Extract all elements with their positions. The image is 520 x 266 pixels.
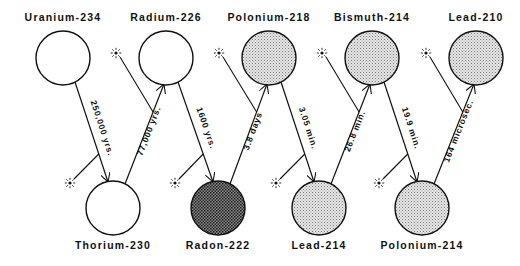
nuclide-circle-po214 — [395, 181, 449, 235]
radiation-star-icon — [271, 178, 281, 188]
nuclide-label-po214: Polonium-214 — [380, 239, 463, 251]
emission-line — [74, 154, 99, 179]
nuclide-label-u234: Uranium-234 — [25, 11, 102, 23]
radiation-star-icon — [65, 178, 75, 188]
nuclide-circle-ra226 — [139, 31, 193, 85]
radiation-star-icon — [421, 48, 431, 58]
radiation-star-icon — [374, 178, 384, 188]
half-life-label: 3.05 min. — [297, 106, 320, 151]
nuclide-circle-th230 — [86, 181, 140, 235]
nuclide-label-bi214: Bismuth-214 — [334, 11, 410, 23]
radiation-star-icon — [170, 178, 180, 188]
nuclide-circle-pb210 — [449, 31, 503, 85]
radiation-star-icon — [317, 48, 327, 58]
half-life-label: 19.9 min. — [400, 106, 423, 151]
radiation-star-icon — [214, 48, 224, 58]
nuclide-label-po218: Polonium-218 — [227, 11, 310, 23]
half-life-label: 164 microsec. — [441, 98, 475, 164]
nuclide-label-pb214: Lead-214 — [291, 239, 346, 251]
half-life-label: 250,000 yrs. — [89, 99, 117, 157]
nuclide-circle-rn222 — [191, 181, 245, 235]
nuclide-circle-pb214 — [292, 181, 346, 235]
emission-line — [383, 154, 408, 179]
nuclide-label-rn222: Radon-222 — [186, 239, 250, 251]
half-life-label: 1600 yrs. — [194, 106, 218, 150]
decay-series-diagram: 250,000 yrs.77,000 yrs.1600 yrs.3.8 days… — [0, 0, 520, 266]
nuclide-label-ra226: Radium-226 — [130, 11, 202, 23]
nuclide-label-pb210: Lead-210 — [448, 11, 503, 23]
half-life-labels: 250,000 yrs.77,000 yrs.1600 yrs.3.8 days… — [89, 98, 476, 164]
nuclide-circle-po218 — [242, 31, 296, 85]
emission-line — [280, 154, 305, 179]
radiation-star-icon — [111, 48, 121, 58]
nuclide-circle-u234 — [36, 31, 90, 85]
nuclide-circle-bi214 — [345, 31, 399, 85]
half-life-label: 26.8 min. — [342, 109, 367, 153]
emission-line — [179, 154, 203, 179]
half-life-label: 3.8 days — [241, 110, 264, 151]
half-life-label: 77,000 yrs. — [135, 105, 163, 157]
nuclide-label-th230: Thorium-230 — [75, 239, 151, 251]
